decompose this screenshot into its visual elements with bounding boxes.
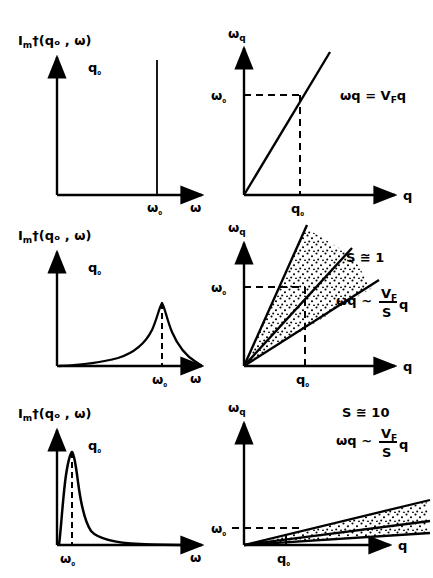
ytick-omega0-row1-right: ω₀ [211,88,226,105]
fraction-denominator-row3: S [382,445,391,460]
figure-canvas: Im†(qₒ , ω) q₀ ω₀ ω ωq ω₀ q₀ q ωq = VFq [0,0,433,578]
axis-label-y-row1: Im†(qₒ , ω) [18,33,92,50]
panel-spectrum-sharp: Im†(qₒ , ω) q₀ ω₀ ω [18,406,202,568]
fraction-numerator-row3: VF [381,426,397,443]
annotation-dispersion-row3: ωq ~ VF S q [336,426,408,460]
panel-dispersion-fan-s10: ωq ω₀ q₀ q S ≅ 10 ωq ~ VF S [211,400,430,568]
axis-label-y-row3-right: ωq [228,400,246,417]
axis-label-y-row2-right: ωq [228,220,246,237]
axis-label-x-row1: ω [190,200,201,215]
dispersion-line [244,52,330,195]
ytick-omega0-row3-right: ω₀ [211,521,226,538]
xtick-q0-row2-right: q₀ [296,372,309,389]
inner-label-q0-row3: q₀ [88,438,101,455]
xtick-omega0-row2: ω₀ [152,372,167,389]
axis-label-x-row3-right: q [398,538,407,553]
axis-label-x-row2-right: q [403,359,412,374]
xtick-omega0-row1: ω₀ [147,200,162,217]
inner-label-q0-row2: q₀ [88,260,101,277]
annotation-dispersion-row1: ωq = VFq [340,88,406,105]
panel-dispersion-fan-s1: ωq ω₀ q₀ q S ≅ 1 ωq ~ VF S [211,220,412,389]
xtick-omega0-row3: ω₀ [60,551,75,568]
axis-label-x-row2: ω [190,371,201,386]
xtick-q0-row3-right: q₀ [277,551,290,568]
fraction-numerator-row2: VF [381,286,397,303]
panel-dispersion-linear: ωq ω₀ q₀ q ωq = VFq [211,26,412,218]
fraction-denominator-row2: S [382,305,391,320]
panel-spectrum-broad: Im†(qₒ , ω) q₀ ω₀ ω [18,228,202,389]
svg-text:ωq ~: ωq ~ [336,433,372,448]
panel-spectrum-delta: Im†(qₒ , ω) q₀ ω₀ ω [18,33,202,217]
axis-label-x-row3: ω [190,550,201,565]
axis-label-y-row2: Im†(qₒ , ω) [18,228,92,245]
physics-figure: Im†(qₒ , ω) q₀ ω₀ ω ωq ω₀ q₀ q ωq = VFq [0,0,433,578]
axis-label-y-row3: Im†(qₒ , ω) [18,406,92,423]
sharp-peak-curve [59,452,196,545]
axis-label-y-row1-right: ωq [228,26,246,43]
ytick-omega0-row2-right: ω₀ [211,280,226,297]
annotation-s-value-row3: S ≅ 10 [342,405,389,420]
fraction-trailing-q-row2: q [399,297,408,312]
xtick-q0-row1-right: q₀ [291,201,304,218]
inner-label-q0-row1: q₀ [88,60,101,77]
svg-text:ωq ~: ωq ~ [336,293,372,308]
axis-label-x-row1-right: q [403,188,412,203]
broad-lorentzian-curve [59,303,202,366]
annotation-s-value-row2: S ≅ 1 [346,250,384,265]
fraction-trailing-q-row3: q [399,437,408,452]
